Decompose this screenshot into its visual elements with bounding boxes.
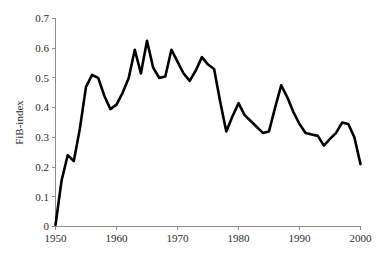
y-tick-label: 0.5 — [35, 72, 49, 84]
y-axis-title: FiB-index — [13, 100, 25, 145]
y-tick-label: 0.3 — [35, 131, 49, 143]
y-tick-label: 0.4 — [35, 101, 49, 113]
x-tick-label: 1950 — [45, 232, 68, 244]
line-chart: 00.10.20.30.40.50.60.7 19501960197019801… — [0, 0, 387, 262]
x-tick-label: 1960 — [106, 232, 129, 244]
x-tick-label: 2000 — [350, 232, 373, 244]
y-tick-label: 0.7 — [35, 12, 49, 24]
plot-background — [0, 0, 387, 262]
y-tick-label: 0 — [44, 220, 50, 232]
y-tick-label: 0.6 — [35, 42, 49, 54]
x-tick-label: 1970 — [167, 232, 190, 244]
y-tick-label: 0.2 — [35, 161, 49, 173]
chart-container: 00.10.20.30.40.50.60.7 19501960197019801… — [0, 0, 387, 262]
y-tick-label: 0.1 — [35, 191, 49, 203]
x-tick-label: 1980 — [228, 232, 251, 244]
x-tick-label: 1990 — [289, 232, 312, 244]
